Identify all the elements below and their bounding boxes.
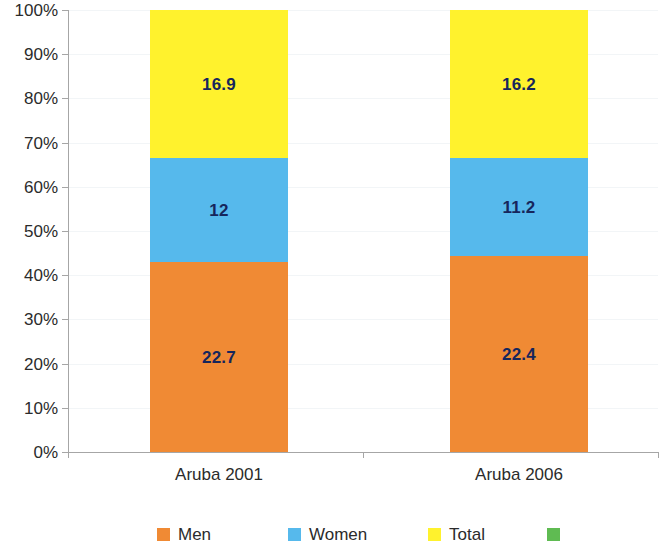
- bar-segment-women[interactable]: 11.2: [450, 158, 588, 256]
- bar-segment-men[interactable]: 22.4: [450, 256, 588, 452]
- x-axis-label-aruba-2006: Aruba 2006: [389, 466, 649, 485]
- y-tick-60: [62, 187, 68, 188]
- bar-segment-label: 22.4: [502, 346, 536, 363]
- y-tick-90: [62, 54, 68, 55]
- x-tick-end: [658, 452, 659, 458]
- plot-area: 16.9 12 22.7 16.2 11.2 22.4: [68, 10, 658, 452]
- y-axis-label: 80%: [2, 90, 58, 107]
- y-axis-label: 50%: [2, 223, 58, 240]
- legend-item-fourth[interactable]: [547, 518, 568, 551]
- bar-aruba-2001[interactable]: 16.9 12 22.7: [150, 10, 288, 452]
- bar-segment-total[interactable]: 16.9: [150, 10, 288, 158]
- bar-segment-label: 16.2: [502, 76, 536, 93]
- legend-item-women[interactable]: Women: [288, 518, 367, 551]
- legend-swatch-fourth-icon: [547, 528, 560, 541]
- bar-segment-label: 16.9: [202, 76, 236, 93]
- bar-segment-label: 22.7: [202, 349, 236, 366]
- y-tick-20: [62, 364, 68, 365]
- y-axis-label: 100%: [2, 2, 58, 19]
- bar-segment-total[interactable]: 16.2: [450, 10, 588, 158]
- y-axis-labels: 100% 90% 80% 70% 60% 50% 40% 30% 20% 10%…: [0, 0, 58, 551]
- y-tick-100: [62, 10, 68, 11]
- legend-item-total[interactable]: Total: [428, 518, 485, 551]
- x-tick-middle: [363, 452, 364, 458]
- chart-legend: Men Women Total: [0, 518, 666, 551]
- y-axis-label: 30%: [2, 311, 58, 328]
- legend-label: Men: [178, 526, 211, 543]
- x-axis-label-aruba-2001: Aruba 2001: [89, 466, 349, 485]
- legend-label: Total: [449, 526, 485, 543]
- bar-segment-label: 11.2: [503, 199, 536, 216]
- y-axis-label: 60%: [2, 179, 58, 196]
- bar-segment-women[interactable]: 12: [150, 158, 288, 262]
- y-axis-label: 70%: [2, 135, 58, 152]
- y-tick-50: [62, 231, 68, 232]
- legend-swatch-men-icon: [157, 528, 170, 541]
- y-axis-label: 90%: [2, 46, 58, 63]
- bar-segment-men[interactable]: 22.7: [150, 262, 288, 452]
- x-tick-start: [68, 452, 69, 458]
- y-axis-line: [68, 10, 69, 453]
- y-tick-40: [62, 275, 68, 276]
- legend-label: Women: [309, 526, 367, 543]
- bar-segment-label: 12: [209, 202, 228, 219]
- y-tick-10: [62, 408, 68, 409]
- y-tick-30: [62, 319, 68, 320]
- legend-swatch-total-icon: [428, 528, 441, 541]
- bar-aruba-2006[interactable]: 16.2 11.2 22.4: [450, 10, 588, 452]
- legend-swatch-women-icon: [288, 528, 301, 541]
- y-tick-70: [62, 143, 68, 144]
- stacked-bar-chart: 16.9 12 22.7 16.2 11.2 22.4: [0, 0, 666, 551]
- y-axis-label: 0%: [2, 444, 58, 461]
- y-axis-label: 20%: [2, 356, 58, 373]
- legend-item-men[interactable]: Men: [157, 518, 211, 551]
- y-axis-label: 10%: [2, 400, 58, 417]
- y-axis-label: 40%: [2, 267, 58, 284]
- y-tick-80: [62, 98, 68, 99]
